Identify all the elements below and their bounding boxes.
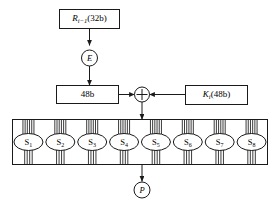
sbox-index: 2 xyxy=(61,141,64,147)
sbox-label-6: S6 xyxy=(173,138,202,148)
key-box-suffix: (48b) xyxy=(211,89,231,99)
sbox-label-3: S3 xyxy=(78,138,107,148)
permutation-label: P xyxy=(134,186,150,195)
diagram-canvas xyxy=(0,0,277,204)
input-box-subscript: i−1 xyxy=(78,17,87,24)
des-f-function-diagram: Ri−1(32b) E 48b Ki(48b) P S1S2S3S4S5S6S7… xyxy=(0,0,277,204)
sbox-index: 4 xyxy=(125,141,128,147)
input-box-label: Ri−1(32b) xyxy=(60,14,120,24)
expansion-label: E xyxy=(82,54,98,63)
sbox-label-8: S8 xyxy=(237,138,266,148)
sbox-index: 5 xyxy=(157,141,160,147)
sbox-index: 3 xyxy=(93,141,96,147)
key-box-label: Ki(48b) xyxy=(186,90,248,100)
sbox-label-1: S1 xyxy=(14,138,43,148)
sbox-label-7: S7 xyxy=(205,138,234,148)
sbox-index: 6 xyxy=(189,141,192,147)
sbox-index: 7 xyxy=(221,141,224,147)
sbox-label-4: S4 xyxy=(110,138,139,148)
sbox-index: 8 xyxy=(252,141,255,147)
sbox-index: 1 xyxy=(29,141,32,147)
sbox-label-5: S5 xyxy=(141,138,170,148)
expanded-box-label: 48b xyxy=(57,90,119,99)
input-box-suffix: (32b) xyxy=(87,13,107,23)
sbox-label-2: S2 xyxy=(46,138,75,148)
